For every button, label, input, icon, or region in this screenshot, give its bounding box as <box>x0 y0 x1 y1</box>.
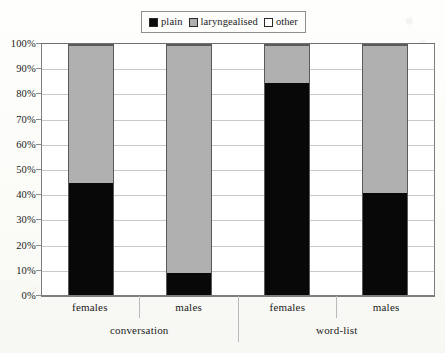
bar-segment-plain <box>363 193 407 295</box>
bar-slot <box>140 44 238 295</box>
white-square-icon <box>264 18 273 27</box>
bars-layer <box>42 44 434 295</box>
x-tick-label: females <box>41 296 140 318</box>
y-tick-label: 90% <box>16 63 36 74</box>
legend-item-other: other <box>264 17 298 28</box>
y-axis: 100%90%80%70%60%50%40%30%20%10%0% <box>0 43 41 296</box>
bar-segment-laryngealised <box>265 45 309 83</box>
bar-segment-plain <box>167 273 211 296</box>
x-axis-level-1: femalesmalesfemalesmales <box>41 296 435 318</box>
x-group-label: word-list <box>239 318 436 342</box>
black-square-icon <box>149 18 158 27</box>
x-group-label: conversation <box>41 318 239 342</box>
y-tick-label: 0% <box>22 290 36 301</box>
stacked-bar[interactable] <box>166 44 212 295</box>
legend-label-plain: plain <box>161 17 183 28</box>
bar-segment-plain <box>69 183 113 296</box>
legend-item-laryngealised: laryngealised <box>189 17 258 28</box>
x-tick-label: females <box>239 296 338 318</box>
x-tick-label: males <box>337 296 435 318</box>
stacked-bar-chart: plain laryngealised other 100%90%80%70%6… <box>0 0 445 353</box>
bar-segment-laryngealised <box>69 45 113 183</box>
x-axis-level-2: conversationword-list <box>41 318 435 342</box>
bar-segment-laryngealised <box>363 45 407 193</box>
gray-square-icon <box>189 18 198 27</box>
chart-legend: plain laryngealised other <box>141 11 306 33</box>
legend-label-laryngealised: laryngealised <box>201 17 258 28</box>
y-tick-label: 40% <box>16 189 36 200</box>
y-tick-label: 50% <box>16 164 36 175</box>
x-axis: femalesmalesfemalesmales conversationwor… <box>41 296 435 342</box>
bar-slot <box>238 44 336 295</box>
plot-area <box>41 43 435 296</box>
bar-slot <box>336 44 434 295</box>
y-tick-label: 80% <box>16 88 36 99</box>
y-tick-label: 30% <box>16 214 36 225</box>
stacked-bar[interactable] <box>68 44 114 295</box>
stacked-bar[interactable] <box>362 44 408 295</box>
y-tick-label: 60% <box>16 138 36 149</box>
y-tick-label: 70% <box>16 113 36 124</box>
bar-segment-plain <box>265 83 309 296</box>
stacked-bar[interactable] <box>264 44 310 295</box>
y-tick-label: 20% <box>16 239 36 250</box>
legend-item-plain: plain <box>149 17 183 28</box>
legend-label-other: other <box>276 17 298 28</box>
bar-slot <box>42 44 140 295</box>
x-tick-label: males <box>140 296 239 318</box>
bar-segment-laryngealised <box>167 45 211 273</box>
y-tick-label: 100% <box>11 38 36 49</box>
y-tick-label: 10% <box>16 264 36 275</box>
